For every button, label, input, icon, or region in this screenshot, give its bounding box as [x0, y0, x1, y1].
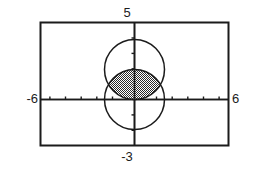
plot-figure: 5 -3 -6 6: [0, 0, 254, 169]
plot-canvas: [0, 0, 254, 169]
